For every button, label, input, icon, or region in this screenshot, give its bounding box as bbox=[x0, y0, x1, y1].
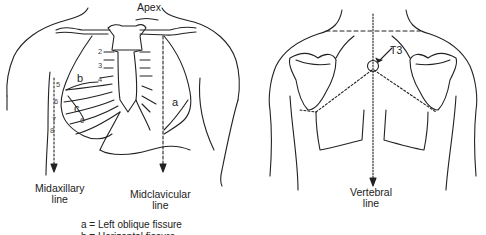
t3-label: T3 bbox=[390, 45, 402, 56]
midaxillary-line-label: Midaxillary line bbox=[35, 183, 85, 205]
rib-number-5: 5 bbox=[56, 81, 60, 89]
rib-number-8: 8 bbox=[50, 127, 54, 135]
fissure-letter-c: c bbox=[74, 103, 80, 114]
fissure-letter-a: a bbox=[172, 97, 178, 108]
vertebral-line-text-2: line bbox=[350, 198, 392, 209]
legend-item-a: a = Left oblique fissure bbox=[81, 219, 182, 230]
rib-number-6-inner: 6 bbox=[80, 117, 84, 125]
legend-item-b: b = Horizontal fissure bbox=[81, 231, 175, 235]
rib-number-4: 4 bbox=[98, 76, 102, 84]
rib-number-7: 7 bbox=[52, 116, 56, 124]
midclavicular-line-label: Midclavicular line bbox=[130, 189, 191, 211]
rib-number-6-left: 6 bbox=[54, 98, 58, 106]
fissure-letter-b: b bbox=[77, 73, 83, 84]
rib-number-2: 2 bbox=[98, 48, 102, 56]
vertebral-line-label: Vertebral line bbox=[350, 187, 392, 209]
midaxillary-line-text-2: line bbox=[35, 194, 85, 205]
midclavicular-line-text-2: line bbox=[130, 200, 191, 211]
apex-label: Apex bbox=[137, 2, 161, 13]
rib-number-3: 3 bbox=[98, 62, 102, 70]
